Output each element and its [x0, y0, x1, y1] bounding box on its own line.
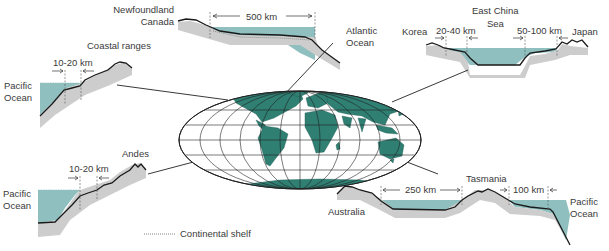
- profile-australia-tasmania: 250 km 100 km Tasmania Australia Pacific…: [328, 173, 598, 245]
- world-map: [170, 86, 430, 192]
- label-japan: Japan: [572, 26, 598, 37]
- profile-coastal-ranges: 10-20 km Coastal ranges Pacific Ocean: [4, 40, 151, 128]
- width-label-10-20km: 10-20 km: [53, 57, 93, 68]
- legend-continental-shelf: Continental shelf: [180, 228, 251, 239]
- profile-east-china-sea: 20-40 km 50-100 km East China Sea Korea …: [402, 5, 598, 78]
- label-pacific: Pacific: [3, 188, 31, 199]
- label-east-china: East China: [472, 5, 519, 16]
- label-pacific: Pacific: [4, 80, 32, 91]
- label-ocean: Ocean: [3, 200, 31, 211]
- label-pacific: Pacific: [570, 196, 598, 207]
- label-sea: Sea: [487, 18, 505, 29]
- label-ocean: Ocean: [570, 208, 598, 219]
- width-label-10-20km: 10-20 km: [69, 163, 109, 174]
- legend: Continental shelf: [144, 228, 251, 239]
- profile-newfoundland: 500 km Newfoundland Canada Atlantic Ocea…: [113, 4, 377, 70]
- width-label-20-40km: 20-40 km: [436, 25, 476, 36]
- label-canada: Canada: [141, 16, 175, 27]
- label-atlantic: Atlantic: [346, 25, 377, 36]
- label-korea: Korea: [402, 26, 428, 37]
- profile-andes: 10-20 km Andes Pacific Ocean: [3, 148, 149, 237]
- label-newfoundland: Newfoundland: [113, 4, 174, 15]
- width-label-250km: 250 km: [405, 184, 436, 195]
- figure-caption-cutoff: [0, 244, 609, 251]
- width-label-100km: 100 km: [513, 184, 544, 195]
- width-label-500km: 500 km: [246, 11, 277, 22]
- label-coastal-ranges: Coastal ranges: [87, 40, 151, 51]
- label-andes: Andes: [122, 148, 149, 159]
- label-tasmania: Tasmania: [466, 173, 507, 184]
- label-ocean: Ocean: [346, 37, 374, 48]
- diagram-canvas: 500 km Newfoundland Canada Atlantic Ocea…: [0, 0, 609, 251]
- width-label-50-100km: 50-100 km: [517, 25, 562, 36]
- label-australia: Australia: [328, 206, 366, 217]
- label-ocean: Ocean: [4, 92, 32, 103]
